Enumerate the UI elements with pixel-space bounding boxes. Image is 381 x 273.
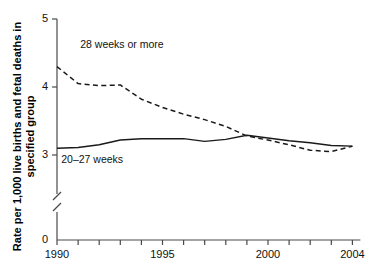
- x-tick-label-2000: 2000: [246, 248, 290, 260]
- y-tick-label-5: 5: [32, 12, 48, 24]
- y-axis-break-mark-lower: [53, 203, 61, 211]
- y-tick-label-3: 3: [32, 148, 48, 160]
- chart-canvas: [0, 0, 381, 273]
- x-tick-label-1995: 1995: [141, 248, 185, 260]
- series-line-20-27-weeks: [57, 135, 352, 148]
- series-label-20-27-weeks: 20–27 weeks: [61, 153, 123, 165]
- series-group: [57, 67, 352, 152]
- x-tick-label-1990: 1990: [35, 248, 79, 260]
- axes-group: [52, 19, 360, 245]
- y-tick-label-4: 4: [32, 80, 48, 92]
- x-tick-label-2004: 2004: [330, 248, 374, 260]
- chart-figure: Rate per 1,000 live births and fetal dea…: [0, 0, 381, 273]
- series-line-28-weeks-or-more: [57, 67, 352, 152]
- series-label-28-weeks-or-more: 28 weeks or more: [80, 38, 163, 50]
- y-tick-label-0: 0: [32, 233, 48, 245]
